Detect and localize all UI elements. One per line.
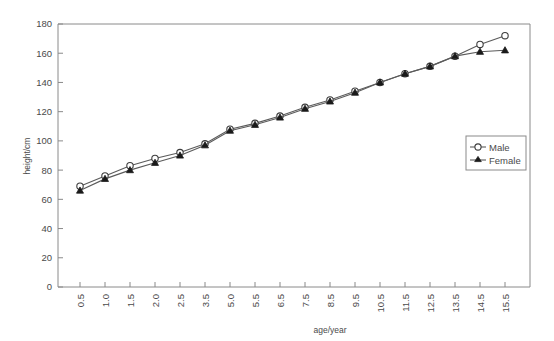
data-point-open-circle-icon xyxy=(477,41,483,47)
x-tick-label: 3.5 xyxy=(200,294,211,307)
height-vs-age-line-chart: 020406080100120140160180 0.51.01.52.02.5… xyxy=(0,0,554,341)
x-tick-label: 13.5 xyxy=(450,294,461,313)
y-tick-label: 0 xyxy=(47,281,52,292)
x-tick-label: 5.5 xyxy=(250,294,261,307)
y-tick-label: 60 xyxy=(41,194,52,205)
plot-frame xyxy=(58,24,530,287)
y-tick-label: 40 xyxy=(41,223,52,234)
x-tick-label: 2.0 xyxy=(150,294,161,307)
series-line-female xyxy=(80,50,505,190)
series-female xyxy=(77,47,509,193)
y-tick-label: 160 xyxy=(36,48,52,59)
x-tick-label: 10.5 xyxy=(375,294,386,313)
chart-legend[interactable]: Male Female xyxy=(466,136,526,170)
y-axis-ticks: 020406080100120140160180 xyxy=(36,18,63,292)
chart-container: 020406080100120140160180 0.51.01.52.02.5… xyxy=(0,0,554,341)
series-line-male xyxy=(80,36,505,186)
y-tick-label: 140 xyxy=(36,77,52,88)
x-tick-label: 1.0 xyxy=(100,294,111,307)
x-tick-label: 7.5 xyxy=(300,294,311,307)
y-tick-label: 100 xyxy=(36,135,52,146)
legend-label-male: Male xyxy=(489,142,510,153)
data-series-layer xyxy=(77,32,509,193)
x-tick-label: 1.5 xyxy=(125,294,136,307)
legend-label-female: Female xyxy=(489,155,521,166)
data-point-filled-triangle-icon xyxy=(502,47,509,53)
x-tick-label: 6.5 xyxy=(275,294,286,307)
y-axis-title: height/cm xyxy=(22,138,32,175)
legend-marker-open-circle-icon xyxy=(475,144,481,150)
x-tick-label: 14.5 xyxy=(475,294,486,313)
y-tick-label: 20 xyxy=(41,252,52,263)
x-tick-label: 15.5 xyxy=(500,294,511,313)
series-male xyxy=(77,32,508,189)
x-tick-label: 8.5 xyxy=(325,294,336,307)
y-tick-label: 120 xyxy=(36,106,52,117)
x-axis-title: age/year xyxy=(313,325,346,335)
x-tick-label: 12.5 xyxy=(425,294,436,313)
x-tick-label: 9.5 xyxy=(350,294,361,307)
y-tick-label: 80 xyxy=(41,165,52,176)
x-tick-label: 5.0 xyxy=(225,294,236,307)
data-point-open-circle-icon xyxy=(502,32,508,38)
x-tick-label: 11.5 xyxy=(400,294,411,312)
y-tick-label: 180 xyxy=(36,18,52,29)
x-tick-label: 0.5 xyxy=(75,294,86,307)
x-tick-label: 2.5 xyxy=(175,294,186,307)
